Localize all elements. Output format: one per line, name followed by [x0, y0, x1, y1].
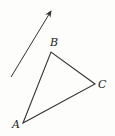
- vertex-label-c: C: [98, 78, 107, 91]
- diagram-canvas: A B C: [0, 0, 115, 136]
- vertex-label-b: B: [49, 36, 58, 49]
- triangle-abc: [23, 52, 95, 123]
- vertex-label-a: A: [11, 118, 20, 131]
- diagram-svg: A B C: [0, 0, 115, 136]
